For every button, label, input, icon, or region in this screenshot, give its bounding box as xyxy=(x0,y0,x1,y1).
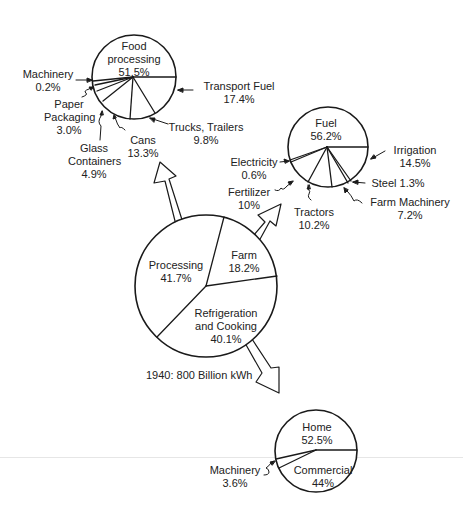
label-value: 14.5% xyxy=(384,157,446,170)
label-text: Fertilizer xyxy=(224,186,274,199)
label-cans: Cans 13.3% xyxy=(123,134,163,160)
home-pointers xyxy=(264,461,275,475)
label-value: 51.5% xyxy=(106,66,162,79)
label-text: Trucks, Trailers xyxy=(166,121,246,134)
label-text: Irrigation xyxy=(384,144,446,157)
label-irrigation: Irrigation 14.5% xyxy=(384,144,446,170)
label-refrigeration-cooking: Refrigeration and Cooking 40.1% xyxy=(186,307,266,346)
label-text: Tractors xyxy=(292,206,336,219)
label-text: Electricity xyxy=(228,156,280,169)
label-text: Commercial xyxy=(290,464,356,477)
label-value: 56.2% xyxy=(304,130,348,143)
label-text: Containers xyxy=(68,155,120,168)
label-value: 10.2% xyxy=(292,219,336,232)
label-value: 41.7% xyxy=(144,272,208,285)
label-glass-containers: Glass Containers 4.9% xyxy=(68,142,120,181)
label-text: Machinery xyxy=(208,464,262,477)
label-food-processing: Food processing 51.5% xyxy=(106,40,162,79)
label-value: 10% xyxy=(224,199,274,212)
diagram-caption: 1940: 800 Billion kWh xyxy=(146,369,254,382)
label-text: Transport Fuel xyxy=(196,80,282,93)
label-fuel: Fuel 56.2% xyxy=(304,117,348,143)
label-text: processing xyxy=(106,53,162,66)
label-value: 40.1% xyxy=(186,333,266,346)
label-value: 7.2% xyxy=(364,209,456,222)
label-machinery-processing: Machinery 0.2% xyxy=(22,68,74,94)
label-text: Refrigeration xyxy=(186,307,266,320)
label-text: Farm xyxy=(222,249,266,262)
label-value: 52.5% xyxy=(296,434,338,447)
label-value: 13.3% xyxy=(123,147,163,160)
label-value: 17.4% xyxy=(196,93,282,106)
label-value: 3.0% xyxy=(44,124,94,137)
label-home: Home 52.5% xyxy=(296,421,338,447)
label-text: Steel 1.3% xyxy=(366,177,430,190)
label-value: 44% xyxy=(290,477,356,490)
label-value: 0.6% xyxy=(228,169,280,182)
label-text: Processing xyxy=(144,259,208,272)
label-text: Food xyxy=(106,40,162,53)
label-value: 9.8% xyxy=(166,134,246,147)
label-value: 3.6% xyxy=(208,477,262,490)
label-text: Cans xyxy=(123,134,163,147)
label-text: Packaging xyxy=(44,111,94,124)
label-machinery-refrigeration: Machinery 3.6% xyxy=(208,464,262,490)
label-farm-machinery: Farm Machinery 7.2% xyxy=(364,196,456,222)
label-trucks-trailers: Trucks, Trailers 9.8% xyxy=(166,121,246,147)
label-value: 0.2% xyxy=(22,81,74,94)
arrow-to-processing xyxy=(154,162,184,229)
label-text: Farm Machinery xyxy=(364,196,456,209)
label-text: Fuel xyxy=(304,117,348,130)
label-processing: Processing 41.7% xyxy=(144,259,208,285)
label-text: Glass xyxy=(68,142,120,155)
caption-text: 1940: 800 Billion kWh xyxy=(146,369,254,382)
label-commercial: Commercial 44% xyxy=(290,464,356,490)
label-text: Paper xyxy=(44,98,94,111)
label-text: Machinery xyxy=(22,68,74,81)
label-tractors: Tractors 10.2% xyxy=(292,206,336,232)
label-fertilizer: Fertilizer 10% xyxy=(224,186,274,212)
label-electricity: Electricity 0.6% xyxy=(228,156,280,182)
label-steel: Steel 1.3% xyxy=(366,177,430,190)
label-value: 18.2% xyxy=(222,262,266,275)
label-text: Home xyxy=(296,421,338,434)
label-paper-packaging: Paper Packaging 3.0% xyxy=(44,98,94,137)
label-text: and Cooking xyxy=(186,320,266,333)
label-transport-fuel: Transport Fuel 17.4% xyxy=(196,80,282,106)
label-farm: Farm 18.2% xyxy=(222,249,266,275)
arrow-to-refrigeration xyxy=(245,339,279,393)
label-value: 4.9% xyxy=(68,168,120,181)
